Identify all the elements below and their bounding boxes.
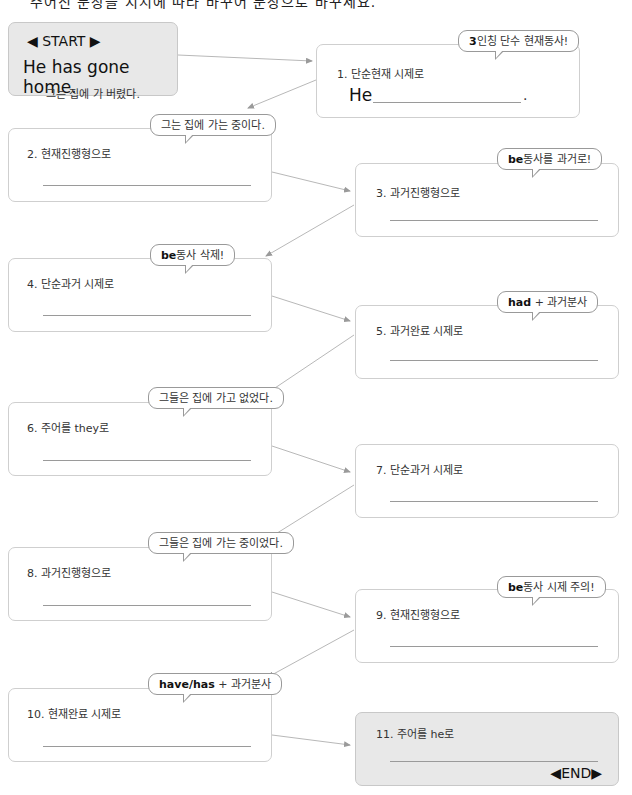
step-5-hint-text: + 과거분사 — [531, 296, 587, 309]
step-6-box: 6. 주어를 they로 — [8, 402, 272, 476]
step-6-label: 6. 주어를 they로 — [27, 419, 109, 435]
step-10-hint-bubble: have/has + 과거분사 — [148, 673, 282, 695]
step-5-hint-bold: had — [508, 296, 531, 309]
step-4-hint-bold: be — [161, 249, 176, 262]
step-3-hint-bold: be — [508, 153, 523, 166]
step-7-answer-line[interactable] — [390, 501, 598, 502]
step-9-hint-bubble: be동사 시제 주의! — [497, 576, 606, 598]
step-4-hint-text: 동사 삭제! — [176, 249, 224, 262]
step-3-hint-text: 동사를 과거로! — [523, 153, 591, 166]
flow-connectors — [0, 0, 632, 795]
step-10-label: 10. 현재완료 시제로 — [27, 705, 122, 721]
step-10-box: 10. 현재완료 시제로 — [8, 688, 272, 762]
step-3-label: 3. 과거진행형으로 — [376, 184, 460, 200]
step-3-hint-bubble: be동사를 과거로! — [497, 148, 602, 170]
step-9-hint-bold: be — [508, 581, 523, 594]
step-1-hint-text: 인칭 단수 현재동사! — [477, 35, 568, 48]
step-8-box: 8. 과거진행형으로 — [8, 547, 272, 621]
step-2-label: 2. 현재진행형으로 — [27, 145, 111, 161]
step-9-label: 9. 현재진행형으로 — [376, 606, 460, 622]
step-4-box: 4. 단순과거 시제로 — [8, 258, 272, 332]
step-3-box: 3. 과거진행형으로 — [355, 163, 619, 237]
step-3-answer-line[interactable] — [390, 220, 598, 221]
step-6-hint-text: 그들은 집에 가고 없었다. — [159, 392, 273, 405]
step-4-answer-line[interactable] — [43, 315, 251, 316]
step-6-hint-bubble: 그들은 집에 가고 없었다. — [148, 387, 284, 409]
step-10-hint-text: + 과거분사 — [215, 678, 271, 691]
step-11-answer-line[interactable] — [390, 761, 598, 762]
step-11-label: 11. 주어를 he로 — [376, 725, 454, 741]
step-8-label: 8. 과거진행형으로 — [27, 564, 111, 580]
instruction-header: 주어진 문장을 지시에 따라 바꾸어 문장으로 바꾸세요. — [30, 0, 376, 11]
step-1-box: 1. 단순현재 시제로 He . — [316, 44, 580, 118]
step-9-answer-line[interactable] — [390, 646, 598, 647]
step-5-answer-line[interactable] — [390, 360, 598, 361]
step-7-box: 7. 단순과거 시제로 — [355, 444, 619, 518]
step-4-hint-bubble: be동사 삭제! — [150, 244, 235, 266]
step-11-end-box: 11. 주어를 he로 ◀END▶ — [355, 712, 619, 786]
start-translation: 그는 집에 가 버렸다. — [9, 85, 177, 101]
step-8-hint-bubble: 그들은 집에 가는 중이었다. — [148, 532, 294, 554]
step-1-hint-bubble: 3인칭 단수 현재동사! — [458, 30, 579, 52]
step-7-label: 7. 단순과거 시제로 — [376, 461, 464, 477]
step-2-box: 2. 현재진행형으로 — [8, 128, 272, 202]
step-8-hint-text: 그들은 집에 가는 중이었다. — [159, 537, 283, 550]
step-2-hint-text: 그는 집에 가는 중이다. — [161, 119, 265, 132]
end-label: ◀END▶ — [550, 765, 602, 781]
step-8-answer-line[interactable] — [43, 605, 251, 606]
step-10-answer-line[interactable] — [43, 746, 251, 747]
step-5-hint-bubble: had + 과거분사 — [497, 291, 598, 313]
step-10-hint-bold: have/has — [159, 678, 215, 691]
step-9-box: 9. 현재진행형으로 — [355, 589, 619, 663]
step-1-hint-bold: 3 — [469, 35, 477, 48]
step-5-label: 5. 과거완료 시제로 — [376, 322, 464, 338]
step-9-hint-text: 동사 시제 주의! — [523, 581, 594, 594]
step-1-prefix: He — [349, 85, 372, 105]
step-1-answer-line[interactable] — [373, 102, 521, 103]
step-6-answer-line[interactable] — [43, 460, 251, 461]
step-2-hint-bubble: 그는 집에 가는 중이다. — [150, 114, 276, 136]
step-5-box: 5. 과거완료 시제로 — [355, 305, 619, 379]
step-1-label: 1. 단순현재 시제로 — [337, 65, 425, 81]
start-box: ◀ START ▶ He has gone home. 그는 집에 가 버렸다. — [8, 22, 178, 96]
start-title: ◀ START ▶ — [27, 33, 101, 49]
step-4-label: 4. 단순과거 시제로 — [27, 275, 115, 291]
step-2-answer-line[interactable] — [43, 185, 251, 186]
step-1-period: . — [523, 87, 527, 103]
